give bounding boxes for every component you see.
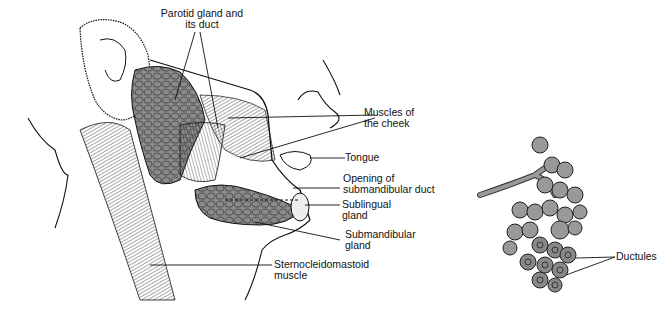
label-muscles-of-cheek: Muscles of the cheek xyxy=(364,107,414,129)
mandible-section xyxy=(291,193,309,221)
label-sublingual-gland: Sublingual gland xyxy=(342,199,391,221)
acini-cluster xyxy=(480,137,615,292)
label-submandibular-gland: Submandibular gland xyxy=(345,229,416,251)
label-ductules: Ductules xyxy=(616,251,657,262)
label-sternocleidomastoid-muscle: Sternocleidomastoid muscle xyxy=(274,259,369,281)
label-tongue: Tongue xyxy=(345,152,379,163)
label-opening-submandibular-duct: Opening of submandibular duct xyxy=(343,173,435,195)
submandibular-gland xyxy=(195,185,300,225)
tongue xyxy=(280,152,311,171)
label-parotid-gland: Parotid gland and its duct xyxy=(152,8,252,30)
